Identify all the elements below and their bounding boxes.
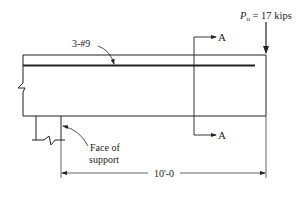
section-mark-top: A — [218, 31, 226, 43]
section-mark-bottom: A — [218, 129, 226, 141]
support — [32, 116, 65, 145]
support-label-line1: Face of — [90, 142, 120, 153]
load-label: Pu = 17 kips — [239, 10, 292, 23]
beam — [18, 55, 266, 116]
break-symbol-left — [18, 55, 25, 116]
beam-diagram: 3-#9 A A Pu = 17 kips Face of support 10… — [0, 0, 308, 203]
dimension-label: 10'-0 — [154, 168, 174, 179]
section-cut-a-a: A A — [194, 31, 226, 141]
break-symbol-support — [32, 136, 65, 145]
support-label-line2: support — [89, 154, 119, 165]
support-leader — [63, 126, 88, 146]
rebar-label: 3-#9 — [72, 38, 90, 49]
